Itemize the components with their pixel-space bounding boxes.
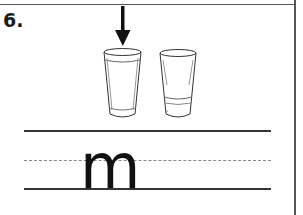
handwriting-top-line [24, 130, 271, 132]
handwriting-baseline [24, 188, 271, 190]
worksheet-item: 6. m [0, 0, 303, 215]
low-glass-icon [160, 50, 196, 118]
full-glass-icon [104, 49, 141, 118]
handwriting-midline [24, 160, 271, 161]
glasses-illustration [0, 0, 303, 130]
down-arrow-icon [115, 6, 131, 46]
